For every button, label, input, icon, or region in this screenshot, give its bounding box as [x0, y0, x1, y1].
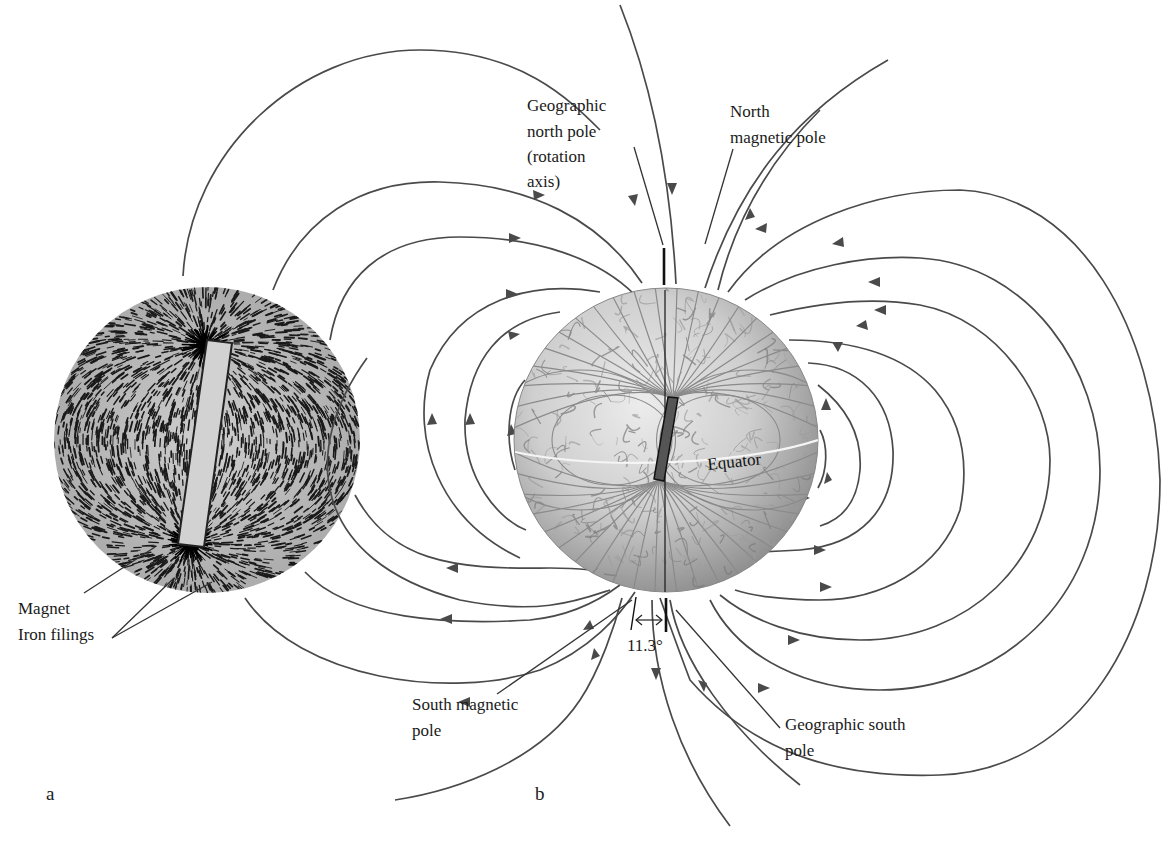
iron-filing [103, 537, 109, 538]
iron-filing [131, 462, 132, 466]
iron-filing [292, 427, 293, 431]
iron-filing [251, 350, 258, 351]
geographic-south-pole-label: Geographic south pole [785, 715, 910, 760]
iron-filing [210, 295, 211, 299]
iron-filing [113, 425, 114, 429]
arrow-icon [440, 614, 452, 624]
iron-filing [283, 343, 290, 344]
iron-filing [316, 457, 317, 462]
iron-filing [266, 454, 267, 459]
iron-filing [157, 538, 163, 539]
iron-filing [59, 448, 60, 453]
iron-filing [286, 555, 295, 556]
iron-filing [94, 447, 95, 452]
iron-filing [351, 450, 352, 458]
iron-filing [131, 310, 135, 311]
iron-filing [201, 316, 202, 322]
iron-filing [346, 454, 347, 460]
iron-filing [129, 342, 135, 343]
iron-filing [93, 338, 97, 339]
magnetic-field-diagram: Equator 11.3° Geographic north pole (rot… [0, 0, 1165, 844]
magnet-label: Magnet [18, 599, 70, 618]
arrow-icon [758, 683, 770, 693]
iron-filing [143, 432, 144, 443]
iron-filing [168, 464, 169, 470]
iron-filing [221, 440, 222, 449]
iron-filing [207, 317, 208, 321]
iron-filing [197, 568, 198, 572]
iron-filing [141, 537, 146, 538]
arrow-icon [832, 342, 843, 352]
iron-filing [237, 448, 238, 453]
iron-filing [148, 457, 149, 464]
iron-filing [289, 558, 299, 559]
iron-filing [123, 433, 124, 444]
iron-filing [170, 420, 171, 424]
relief-stroke [565, 436, 566, 448]
iron-filing [195, 411, 196, 416]
iron-filings-panel [54, 284, 360, 597]
iron-filing [182, 435, 183, 446]
iron-filing [249, 450, 250, 455]
iron-filing [96, 333, 103, 334]
iron-filing [196, 386, 197, 390]
iron-filing [251, 426, 252, 435]
iron-filing [222, 542, 233, 543]
iron-filing [176, 435, 177, 442]
iron-filing [118, 427, 119, 434]
iron-filing [140, 327, 146, 328]
field-line [305, 572, 620, 622]
magnetic-south-pole-marker [631, 597, 636, 630]
iron-filing [274, 343, 282, 344]
iron-filing [263, 562, 269, 563]
iron-filing [121, 444, 122, 454]
field-line [652, 600, 730, 826]
arrow-icon [508, 331, 520, 340]
iron-filing [150, 332, 154, 333]
arrow-icon [591, 648, 600, 660]
panel-a-label: a [46, 783, 55, 804]
iron-filing [294, 326, 302, 327]
arrow-icon [465, 413, 475, 425]
angle-arrow [636, 615, 662, 625]
south-magnetic-pole-label: South magnetic pole [412, 695, 522, 740]
iron-filing [250, 563, 256, 564]
iron-filing [123, 443, 124, 452]
iron-filing [159, 455, 160, 461]
iron-filing [259, 444, 260, 452]
iron-filing [200, 299, 201, 306]
iron-filing [350, 436, 351, 441]
arrow-icon [533, 190, 545, 200]
iron-filing [184, 567, 185, 571]
iron-filing [242, 346, 252, 347]
iron-filing [339, 439, 340, 447]
arrow-icon [788, 635, 800, 645]
iron-filing [201, 302, 202, 307]
iron-filing [131, 551, 138, 552]
iron-filing [213, 292, 214, 297]
iron-filing [276, 573, 280, 574]
iron-filing [176, 468, 177, 474]
iron-filing [58, 426, 59, 434]
field-line [620, 5, 676, 284]
angle-label: 11.3° [627, 636, 663, 655]
iron-filing [108, 339, 119, 340]
iron-filing [181, 584, 182, 589]
iron-filing [62, 445, 63, 452]
iron-filing [195, 583, 196, 590]
iron-filing [116, 554, 127, 555]
iron-filing [80, 428, 81, 432]
iron-filing [286, 543, 291, 544]
iron-filing [116, 545, 125, 546]
arrow-icon [628, 194, 638, 206]
field-line [245, 592, 635, 683]
arrow-icon [821, 398, 831, 410]
iron-filing [114, 556, 121, 557]
iron-filing [255, 560, 262, 561]
iron-filing [70, 447, 71, 453]
iron-filing [179, 475, 180, 480]
iron-filing [155, 434, 156, 440]
iron-filing [153, 345, 161, 346]
iron-filing [160, 439, 161, 447]
iron-filing [63, 422, 64, 426]
